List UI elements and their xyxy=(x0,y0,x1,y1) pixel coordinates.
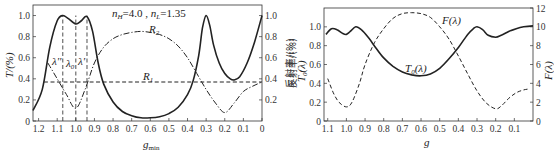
label-r2: R2 xyxy=(148,23,160,37)
left-x-ticks: 1.21.11.00.90.80.70.60.50.40.30.20.10 xyxy=(33,118,265,134)
y-tick-right-label: 0.6 xyxy=(265,53,277,63)
right-series xyxy=(326,13,533,109)
right-x-axis-label: g xyxy=(424,136,430,148)
y-tick-right-label: 8 xyxy=(536,41,541,51)
x-tick-label: 0 xyxy=(260,124,265,134)
label-t0-lambda: T0(λ) xyxy=(405,62,427,76)
x-tick-label: 0.3 xyxy=(200,124,212,134)
x-tick-label: 0.4 xyxy=(182,124,194,134)
y-tick-label: 0.8 xyxy=(18,32,30,42)
x-tick-label: 0.9 xyxy=(89,124,101,134)
y-tick-right-label: 0.2 xyxy=(265,95,277,105)
right-right-y-axis-label: F(λ) xyxy=(542,61,554,81)
y-tick-label: 0.6 xyxy=(309,60,321,70)
x-tick-label: 0.8 xyxy=(378,124,390,134)
y-tick-label: 0.6 xyxy=(18,53,30,63)
left-chart: 1.21.11.00.90.80.70.60.50.40.30.20.10 00… xyxy=(3,5,298,152)
x-tick-label: 0.6 xyxy=(415,124,427,134)
y-tick-right-label: 1.0 xyxy=(265,11,277,21)
y-tick-label: 0.4 xyxy=(18,74,30,84)
right-chart: 1.11.00.90.80.70.60.50.40.30.20.1 00.20.… xyxy=(284,4,554,149)
x-tick-label: 0.7 xyxy=(396,124,408,134)
right-y-axis-label-t0: T0(λ) xyxy=(295,60,309,82)
y-tick-right-label: 6 xyxy=(536,60,541,70)
x-tick-label: 0.1 xyxy=(237,124,249,134)
y-tick-label: 0.2 xyxy=(309,98,321,108)
x-tick-label: 0.1 xyxy=(508,124,520,134)
y-tick-label: 0 xyxy=(25,117,30,127)
x-tick-label: 0.8 xyxy=(107,124,119,134)
x-tick-label: 0.5 xyxy=(163,124,175,134)
x-tick-label: 1.0 xyxy=(70,124,82,134)
y-tick-right-label: 0 xyxy=(536,117,541,127)
y-tick-right-label: 12 xyxy=(536,4,546,14)
y-tick-label: 0 xyxy=(316,117,321,127)
series-r2-line xyxy=(48,31,262,112)
y-tick-label: 0.4 xyxy=(309,79,321,89)
x-tick-label: 1.0 xyxy=(340,124,352,134)
y-tick-right-label: 4 xyxy=(536,79,541,89)
x-tick-label: 0.4 xyxy=(452,124,464,134)
left-annotation: nH=4.0 , nL=1.35 xyxy=(112,7,186,21)
y-tick-label: 0.8 xyxy=(309,41,321,51)
x-tick-label: 0.9 xyxy=(359,124,371,134)
left-x-axis-label: gmin xyxy=(143,138,160,152)
marker-label-lambda-0: λ0 xyxy=(65,57,75,71)
x-tick-label: 0.3 xyxy=(471,124,483,134)
y-tick-label: 1.0 xyxy=(309,22,321,32)
x-tick-label: 1.1 xyxy=(322,124,334,134)
y-tick-right-label: 0.4 xyxy=(265,74,277,84)
series-t0-line xyxy=(326,26,533,76)
right-x-ticks: 1.11.00.90.80.70.60.50.40.30.20.1 xyxy=(322,118,521,134)
y-tick-right-label: 0.8 xyxy=(265,32,277,42)
marker-label-lambda-prime: λ' xyxy=(77,55,86,67)
x-tick-label: 1.2 xyxy=(33,124,45,134)
x-tick-label: 1.1 xyxy=(51,124,63,134)
x-tick-label: 0.2 xyxy=(490,124,502,134)
left-y-axis-label: T/(%) xyxy=(3,52,16,78)
y-tick-right-label: 2 xyxy=(536,98,541,108)
y-tick-label: 0.2 xyxy=(18,95,30,105)
y-tick-label: 1.0 xyxy=(18,11,30,21)
figure-two-panels: 1.21.11.00.90.80.70.60.50.40.30.20.10 00… xyxy=(0,0,554,152)
x-tick-label: 0.6 xyxy=(144,124,156,134)
label-r1: R1 xyxy=(142,70,153,84)
label-f-lambda: F(λ) xyxy=(441,14,461,27)
x-tick-label: 0.2 xyxy=(219,124,231,134)
marker-label-lambda-double-prime: λ'' xyxy=(51,55,62,67)
y-tick-right-label: 10 xyxy=(536,22,546,32)
right-y-axis-label-cn: 反射率/(%) xyxy=(284,38,295,88)
x-tick-label: 0.5 xyxy=(434,124,446,134)
x-tick-label: 0.7 xyxy=(126,124,138,134)
right-plot-frame xyxy=(324,8,533,121)
